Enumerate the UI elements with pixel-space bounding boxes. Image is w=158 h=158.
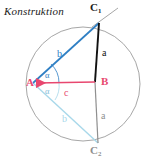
vertex-label-a: A [26,77,34,88]
geometry-figure: Konstruktion A B C1 C2 b a c b a α α [0,0,158,158]
side-label-a-lower: a [101,111,105,121]
side-label-b-upper: b [57,49,62,59]
segment-ab [36,82,95,83]
vertex-label-c2-sub: 2 [98,150,101,157]
angle-arc-upper [51,64,59,83]
circumscribed-arc [26,27,140,141]
vertex-label-c1-sub: 1 [98,7,101,14]
segment-a-lower [95,82,98,143]
page-title: Konstruktion [4,6,64,17]
geometry-canvas [0,0,158,158]
side-label-c: c [64,88,68,98]
segment-a-upper [95,23,99,82]
angle-alpha-lower: α [45,87,49,96]
vertex-label-c1-base: C [90,1,98,13]
vertex-label-c2: C2 [90,145,101,156]
segment-b-upper [33,23,99,83]
vertex-label-c1: C1 [90,2,101,13]
vertex-label-c2-base: C [90,144,98,156]
angle-arc-lower [55,83,59,100]
angle-alpha-upper: α [45,71,49,80]
side-label-a-upper: a [102,48,106,58]
vertex-label-b: B [101,76,108,87]
side-label-b-lower: b [62,114,67,124]
